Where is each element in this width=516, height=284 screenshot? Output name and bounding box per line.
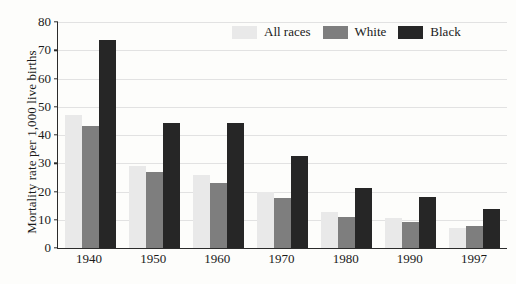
bar	[385, 218, 402, 248]
bar	[483, 209, 500, 248]
bar-chart-figure: Mortality rate per 1,000 live births 010…	[0, 0, 516, 284]
bar	[163, 123, 180, 248]
bar-groups	[58, 22, 507, 248]
bar-group	[250, 22, 314, 248]
legend-item: All races	[232, 24, 311, 40]
legend-label: White	[355, 24, 387, 40]
legend-swatch	[398, 26, 423, 39]
bar-group	[58, 22, 122, 248]
bar	[193, 175, 210, 248]
bar	[402, 222, 419, 248]
legend-label: All races	[264, 24, 311, 40]
x-axis-tick-label: 1960	[185, 251, 249, 267]
x-axis-tick-label: 1980	[314, 251, 378, 267]
legend-swatch	[232, 26, 257, 39]
bar	[99, 40, 116, 248]
x-axis-tick-label: 1940	[57, 251, 121, 267]
x-axis-tick-label: 1990	[378, 251, 442, 267]
bar-group	[186, 22, 250, 248]
bar	[466, 226, 483, 248]
bar	[257, 192, 274, 249]
legend-item: White	[323, 24, 387, 40]
bar-group	[315, 22, 379, 248]
bar	[419, 197, 436, 248]
bar	[129, 166, 146, 248]
legend-item: Black	[398, 24, 460, 40]
legend-swatch	[323, 26, 348, 39]
chart-legend: All racesWhiteBlack	[232, 24, 461, 40]
x-axis-labels: 1940195019601970198019901997	[57, 251, 506, 267]
x-axis-tick-label: 1997	[442, 251, 506, 267]
bar-group	[122, 22, 186, 248]
bar	[146, 172, 163, 248]
x-axis-tick-label: 1950	[121, 251, 185, 267]
legend-label: Black	[430, 24, 460, 40]
bar	[65, 115, 82, 248]
bar	[291, 156, 308, 248]
plot-area: 01020304050607080	[57, 22, 507, 249]
bar-group	[443, 22, 507, 248]
bar	[338, 217, 355, 248]
bar	[210, 183, 227, 248]
bar	[321, 212, 338, 248]
bar	[82, 126, 99, 248]
bar	[355, 188, 372, 248]
bar	[274, 198, 291, 248]
bar	[449, 228, 466, 248]
bar-group	[379, 22, 443, 248]
bar	[227, 123, 244, 248]
x-axis-tick-label: 1970	[249, 251, 313, 267]
